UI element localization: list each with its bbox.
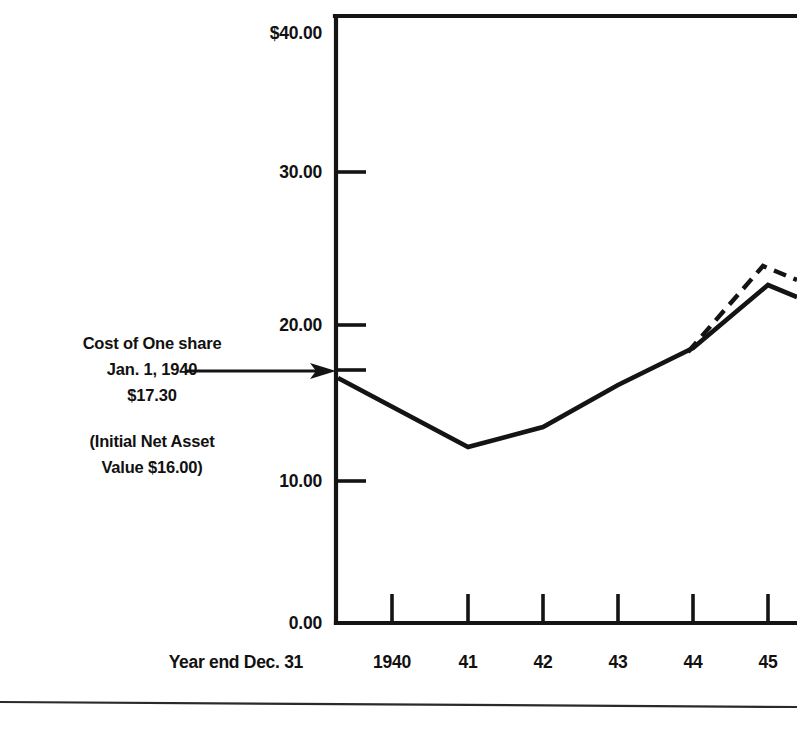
callout-line-3: $17.30: [127, 386, 176, 404]
y-tick-label-40: $40.00: [270, 23, 323, 43]
x-tick-label-42: 42: [533, 652, 553, 672]
callout-line-4: (Initial Net Asset: [89, 432, 215, 450]
series-solid-line: [338, 285, 797, 447]
callout-line-2: Jan. 1, 1940: [107, 360, 197, 378]
y-tick-label-20: 20.00: [279, 315, 322, 335]
x-axis-caption: Year end Dec. 31: [169, 652, 304, 672]
x-tick-label-44: 44: [683, 652, 703, 672]
y-tick-label-10: 10.00: [279, 471, 322, 491]
chart-page: $40.00 30.00 20.00 10.00 0.00 Cost of On…: [0, 0, 797, 731]
page-footer-rule: [0, 702, 797, 707]
x-tick-label-43: 43: [608, 652, 628, 672]
x-tick-label-1940: 1940: [373, 652, 412, 672]
x-tick-label-41: 41: [458, 652, 478, 672]
callout-line-1: Cost of One share: [83, 334, 222, 352]
callout-line-5: Value $16.00): [101, 458, 202, 476]
line-chart: $40.00 30.00 20.00 10.00 0.00 Cost of On…: [0, 0, 797, 731]
x-tick-label-45: 45: [758, 652, 778, 672]
y-tick-label-0: 0.00: [289, 613, 323, 633]
y-tick-label-30: 30.00: [279, 162, 322, 182]
